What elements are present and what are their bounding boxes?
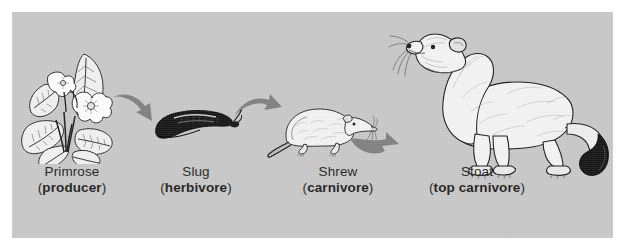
organism-name: Shrew [278,164,398,179]
organism-role: (producer) [12,180,132,195]
organism-name: Primrose [12,164,132,179]
stoat-icon [367,24,617,184]
label-shrew: Shrew (carnivore) [278,164,398,195]
food-chain-diagram: Primrose (producer) Slug (herbivore) Shr… [0,0,628,250]
primrose-plant-icon [18,46,118,164]
curved-arrow-right-icon [110,92,158,126]
organism-role: (herbivore) [136,180,256,195]
organism-role: (carnivore) [278,180,398,195]
organism-name: Slug [136,164,256,179]
organism-role: (top carnivore) [407,180,547,195]
label-slug: Slug (herbivore) [136,164,256,195]
diagram-panel: Primrose (producer) Slug (herbivore) Shr… [12,12,613,238]
slug-icon [152,102,242,144]
label-primrose: Primrose (producer) [12,164,132,195]
organism-name: Stoat [407,164,547,179]
label-stoat: Stoat (top carnivore) [407,164,547,195]
